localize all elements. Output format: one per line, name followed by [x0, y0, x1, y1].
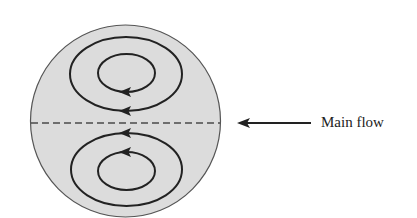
main-flow-label: Main flow: [321, 113, 384, 131]
flow-diagram-svg: [0, 0, 417, 218]
diagram-canvas: Main flow: [0, 0, 417, 218]
